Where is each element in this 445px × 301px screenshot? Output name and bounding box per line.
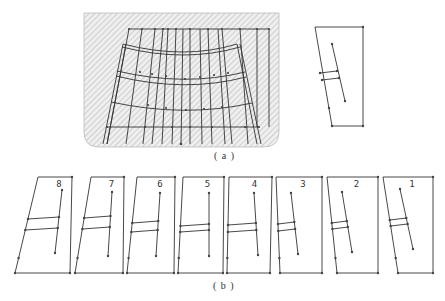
panel-label: 5 [205, 179, 210, 189]
panel-label: 4 [252, 179, 257, 189]
element-panel: 3 [276, 176, 323, 274]
caption-a: ( a ) [214, 150, 235, 161]
isolated-element [315, 27, 363, 126]
element-panel: 4 [226, 176, 273, 274]
element-panel: 7 [74, 176, 125, 274]
element-panel: 8 [14, 176, 73, 274]
caption-b: ( b ) [213, 280, 235, 291]
panel-label: 3 [300, 179, 305, 189]
panel-label: 7 [109, 179, 114, 189]
element-panels: 87654321 [14, 176, 434, 274]
element-panel: 1 [383, 176, 434, 274]
isolated-element-nodes [319, 26, 364, 127]
element-panel: 6 [126, 176, 176, 274]
panel-label: 1 [409, 179, 414, 189]
panel-label: 8 [56, 179, 61, 189]
panel-label: 2 [354, 179, 359, 189]
panel-label: 6 [157, 179, 162, 189]
element-panel: 5 [177, 176, 225, 274]
element-panel: 2 [327, 176, 379, 274]
